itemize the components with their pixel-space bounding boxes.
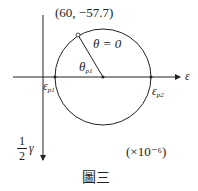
epsilon-axis-label: ε <box>185 70 190 82</box>
caption: 圖三 <box>82 170 110 184</box>
mohr-circle-diagram: (60, −57.7) θ = 0 θp1 ε εp1 εp2 1 2 γ (×… <box>0 0 198 191</box>
theta-p1-label: θp1 <box>79 60 92 75</box>
eps-p1-label: εp1 <box>43 80 55 94</box>
point-label: (60, −57.7) <box>55 6 113 19</box>
point-marker <box>76 33 80 37</box>
gamma-fraction: 1 2 <box>17 135 27 162</box>
eps-p2-dot <box>150 76 153 79</box>
diagram-graphics <box>0 0 198 191</box>
center-dot <box>102 76 105 79</box>
eps-p2-label: εp2 <box>152 85 164 99</box>
scale-note: (×10⁻⁶) <box>126 145 166 158</box>
gamma-label: γ <box>29 142 34 154</box>
eps-p1-dot <box>54 76 57 79</box>
fraction-numerator: 1 <box>17 135 27 147</box>
fraction-denominator: 2 <box>17 150 27 162</box>
theta-zero-label: θ = 0 <box>93 37 121 50</box>
